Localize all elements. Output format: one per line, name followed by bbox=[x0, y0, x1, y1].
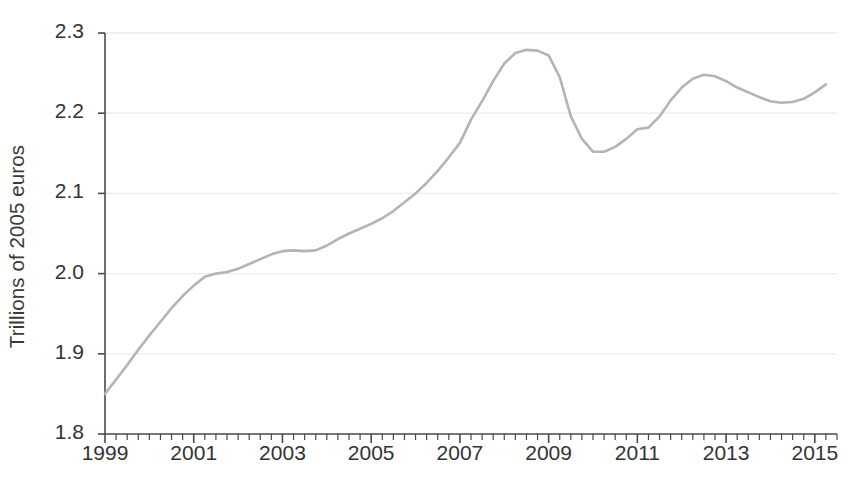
x-tick-label: 2001 bbox=[170, 441, 217, 465]
y-tick-label: 2.2 bbox=[0, 99, 96, 123]
x-tick-label: 2013 bbox=[703, 441, 750, 465]
x-axis-tick-labels: 199920012003200520072009201120132015 bbox=[0, 441, 862, 481]
y-tick-label: 2.1 bbox=[0, 179, 96, 203]
y-tick-label: 2.3 bbox=[0, 19, 96, 43]
chart-figure: Trillions of 2005 euros 2.32.22.12.01.91… bbox=[0, 0, 862, 493]
x-tick-label: 2011 bbox=[615, 441, 660, 465]
plot-svg bbox=[105, 33, 837, 434]
y-axis-major-ticks bbox=[98, 33, 105, 434]
x-tick-label: 2003 bbox=[259, 441, 306, 465]
x-tick-label: 2007 bbox=[437, 441, 484, 465]
plot-area bbox=[105, 33, 837, 434]
x-tick-label: 2009 bbox=[525, 441, 572, 465]
x-tick-label: 2005 bbox=[348, 441, 395, 465]
data-series-line bbox=[105, 50, 826, 394]
y-tick-label: 2.0 bbox=[0, 260, 96, 284]
y-tick-label: 1.9 bbox=[0, 340, 96, 364]
y-axis-tick-labels: 2.32.22.12.01.91.8 bbox=[0, 0, 96, 493]
x-tick-label: 1999 bbox=[82, 441, 129, 465]
x-tick-label: 2015 bbox=[791, 441, 838, 465]
